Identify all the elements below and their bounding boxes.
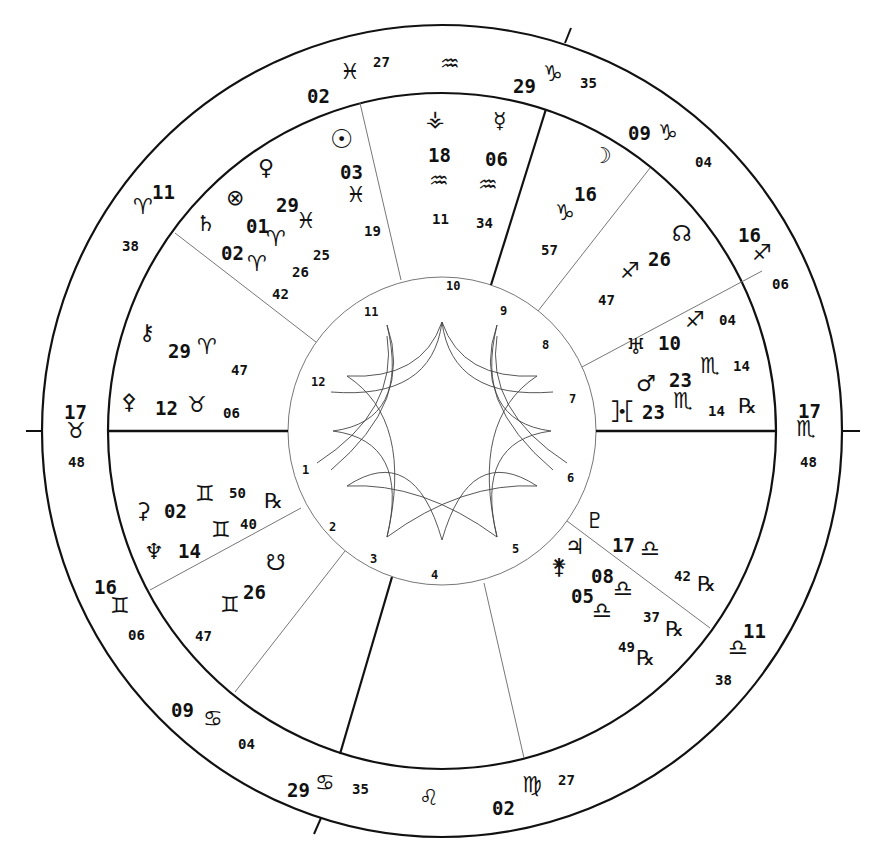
sagittarius-icon: ♐ xyxy=(685,309,705,331)
planet-minutes: 14 xyxy=(708,404,725,418)
planet-degree: 08 xyxy=(591,567,614,586)
ic-cusp-line xyxy=(340,577,392,754)
planet-minutes: 47 xyxy=(195,629,212,643)
planet-degree: 02 xyxy=(164,502,187,521)
planet-degree: 12 xyxy=(155,399,178,418)
planet-minutes: 47 xyxy=(598,293,615,307)
cusp-minutes: 38 xyxy=(122,239,139,253)
gemini-icon: ♊ xyxy=(220,594,240,616)
planet-degree: 16 xyxy=(574,185,597,204)
planet-minutes: 34 xyxy=(476,216,493,230)
cusp-minutes: 04 xyxy=(238,737,255,751)
cusp-minutes: 48 xyxy=(800,455,817,469)
planet-minutes: 42 xyxy=(272,287,289,301)
libra-icon: ♎ xyxy=(640,538,660,560)
cancer-icon: ♋ xyxy=(203,708,223,730)
taurus-icon: ♉ xyxy=(66,420,86,442)
planet-minutes: 25 xyxy=(313,248,330,262)
aries-icon: ♈ xyxy=(247,253,267,275)
pluto-icon: ♇ xyxy=(585,510,605,532)
cusp-degree: 29 xyxy=(287,781,310,800)
vesta-icon: ⚶ xyxy=(426,108,445,130)
north-node-icon: ☊ xyxy=(672,223,692,245)
planet-minutes: 42 xyxy=(674,569,691,583)
aries-icon: ♈ xyxy=(197,336,217,358)
house-number-11: 11 xyxy=(364,306,378,318)
juno-icon: ⚵ xyxy=(551,556,567,578)
scorpio-icon: ♏ xyxy=(673,390,693,412)
libra-icon: ♎ xyxy=(592,600,612,622)
cusp-minutes: 27 xyxy=(373,55,390,69)
moon-icon: ☽ xyxy=(592,145,612,167)
cusp-degree: 02 xyxy=(492,799,515,818)
leo-icon: ♌ xyxy=(419,787,439,809)
cusp-degree: 11 xyxy=(152,183,175,202)
planet-degree: 18 xyxy=(428,146,451,165)
cusp-minutes: 06 xyxy=(128,628,145,642)
planet-minutes: 50 xyxy=(229,486,246,500)
cusp-minutes: 38 xyxy=(715,673,732,687)
planet-minutes: 37 xyxy=(643,610,660,624)
chiron-icon: ⚷ xyxy=(139,322,155,344)
sagittarius-icon: ♐ xyxy=(752,242,772,264)
taurus-icon: ♉ xyxy=(187,394,207,416)
libra-icon: ♎ xyxy=(613,578,633,600)
planet-degree: 26 xyxy=(648,250,671,269)
ceres-icon: ⚳ xyxy=(135,500,151,522)
part-of-fortune-icon: ⊗ xyxy=(226,187,244,209)
capricorn-icon: ♑ xyxy=(658,122,678,144)
neptune-icon: ♆ xyxy=(144,541,164,563)
virgo-icon: ♍ xyxy=(522,774,542,796)
sagittarius-icon: ♐ xyxy=(620,260,640,282)
planet-degree: 03 xyxy=(340,163,363,182)
retrograde-icon: ℞ xyxy=(264,491,283,512)
scorpio-icon: ♏ xyxy=(700,355,720,377)
capricorn-icon: ♑ xyxy=(555,202,575,224)
jupiter-icon: ♃ xyxy=(565,536,585,558)
cusp-12-line xyxy=(175,233,316,342)
pisces-icon: ♓ xyxy=(296,210,316,232)
planet-minutes: 11 xyxy=(432,212,449,226)
cusp-11-line xyxy=(360,103,401,280)
aspect-star xyxy=(317,322,567,540)
house-number-12: 12 xyxy=(311,376,325,388)
mc-cusp-line xyxy=(491,109,546,285)
house-number-8: 8 xyxy=(542,339,549,351)
planet-degree: 05 xyxy=(571,587,594,606)
retrograde-icon: ℞ xyxy=(697,574,716,595)
south-node-icon: ☋ xyxy=(266,552,286,574)
retrograde-icon: ℞ xyxy=(636,648,655,669)
capricorn-icon: ♑ xyxy=(543,63,563,85)
pisces-icon: ♓ xyxy=(346,184,366,206)
planet-minutes: 47 xyxy=(231,363,248,377)
planet-degree: 17 xyxy=(612,536,635,555)
libra-icon: ♎ xyxy=(728,637,748,659)
cusp-minutes: 35 xyxy=(352,782,369,796)
aries-icon: ♈ xyxy=(133,196,153,218)
cusp-degree: 02 xyxy=(307,87,330,106)
mercury-icon: ☿ xyxy=(493,110,507,132)
saturn-icon: ♄ xyxy=(196,213,216,235)
house-number-7: 7 xyxy=(569,393,576,405)
cusp-degree: 09 xyxy=(171,701,194,720)
cancer-icon: ♋ xyxy=(315,772,335,794)
mc-tick xyxy=(565,28,571,43)
house-number-9: 9 xyxy=(500,305,507,317)
planet-minutes: 04 xyxy=(719,313,736,327)
pisces-icon: ♓ xyxy=(340,61,360,83)
scorpio-icon: ♏ xyxy=(796,418,816,440)
planet-degree: 06 xyxy=(485,150,508,169)
house-number-2: 2 xyxy=(329,521,336,533)
house-number-4: 4 xyxy=(431,569,438,581)
planet-minutes: 57 xyxy=(541,243,558,257)
cusp-degree: 09 xyxy=(628,124,651,143)
pallas-icon: ⚴ xyxy=(121,391,137,413)
aquarius-icon: ♒ xyxy=(478,174,498,196)
cusp-minutes: 06 xyxy=(772,277,789,291)
sun-icon: ☉ xyxy=(330,126,353,152)
planet-degree: 23 xyxy=(642,403,665,422)
planet-degree: 10 xyxy=(658,334,681,353)
planet-minutes: 26 xyxy=(292,265,309,279)
cusp-5-line xyxy=(484,583,524,758)
gemini-icon: ♊ xyxy=(110,595,130,617)
